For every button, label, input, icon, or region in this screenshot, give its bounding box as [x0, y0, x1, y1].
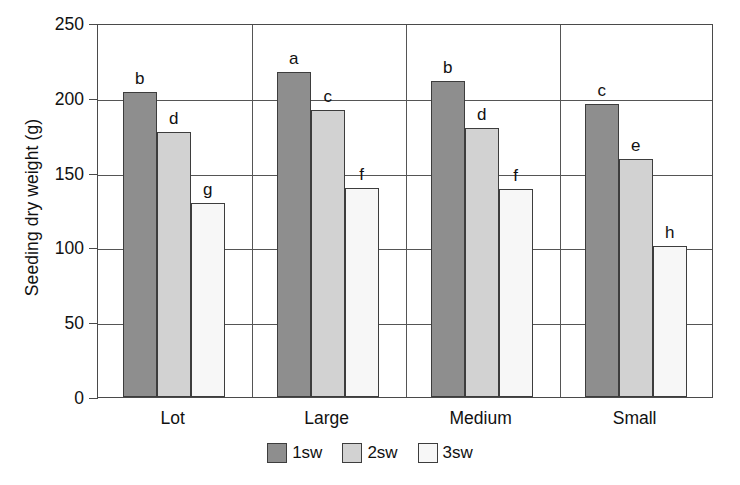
- y-axis-tick-label: 200: [38, 88, 84, 109]
- legend-label: 3sw: [443, 443, 473, 463]
- x-axis-tick-label-lot: Lot: [160, 408, 184, 429]
- bar-significance-letter: d: [169, 109, 178, 129]
- legend-label: 2sw: [367, 443, 397, 463]
- bar-significance-letter: c: [323, 87, 332, 107]
- bar: [465, 128, 499, 397]
- legend-swatch-icon: [267, 443, 287, 463]
- bar-significance-letter: f: [513, 166, 518, 186]
- y-axis-tick-label: 50: [38, 313, 84, 334]
- bar-significance-letter: b: [443, 58, 452, 78]
- group-divider: [406, 25, 407, 397]
- y-axis-tick-label: 250: [38, 14, 84, 35]
- bar-chart: Seeding dry weight (g) 050100150200250 b…: [0, 0, 740, 485]
- bar-significance-letter: e: [631, 136, 640, 156]
- bar-significance-letter: f: [359, 165, 364, 185]
- bar-significance-letter: a: [289, 49, 298, 69]
- bar-significance-letter: b: [135, 69, 144, 89]
- bar: [311, 110, 345, 397]
- bar: [431, 81, 465, 397]
- bar: [345, 188, 379, 397]
- x-axis-tick-label-medium: Medium: [450, 408, 512, 429]
- y-axis-tick-label: 0: [38, 388, 84, 409]
- y-axis-tick-mark: [89, 398, 98, 399]
- chart-legend: 1sw2sw3sw: [0, 443, 740, 463]
- x-axis-tick-label-large: Large: [304, 408, 349, 429]
- bar: [191, 203, 225, 397]
- legend-label: 1sw: [292, 443, 322, 463]
- plot-area: bdgacfbdfceh: [97, 24, 713, 398]
- bar: [499, 189, 533, 397]
- bar: [653, 246, 687, 397]
- bar: [585, 104, 619, 397]
- x-axis-tick-label-small: Small: [613, 408, 657, 429]
- legend-swatch-icon: [418, 443, 438, 463]
- bar-significance-letter: g: [203, 180, 212, 200]
- group-divider: [252, 25, 253, 397]
- bar: [619, 159, 653, 397]
- bar: [157, 132, 191, 397]
- bar: [277, 72, 311, 397]
- legend-item-2sw: 2sw: [342, 443, 397, 463]
- y-axis-tick-label: 100: [38, 238, 84, 259]
- group-divider: [560, 25, 561, 397]
- legend-item-1sw: 1sw: [267, 443, 322, 463]
- bar-significance-letter: d: [477, 105, 486, 125]
- bar-significance-letter: c: [597, 81, 606, 101]
- legend-swatch-icon: [342, 443, 362, 463]
- y-axis-tick-label: 150: [38, 163, 84, 184]
- gridline: [98, 100, 712, 101]
- bar: [123, 92, 157, 397]
- legend-item-3sw: 3sw: [418, 443, 473, 463]
- bar-significance-letter: h: [665, 223, 674, 243]
- y-axis-tick-labels: 050100150200250: [38, 0, 84, 485]
